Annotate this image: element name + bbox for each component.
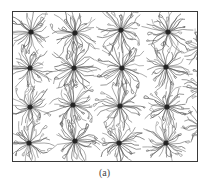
star-core xyxy=(27,104,32,109)
star-structure xyxy=(181,29,198,68)
star-core xyxy=(70,102,75,107)
star-structure xyxy=(46,41,101,90)
star-core xyxy=(71,65,76,70)
star-structure xyxy=(12,86,51,131)
star-structure xyxy=(50,11,99,60)
star-structure xyxy=(12,45,52,88)
star-core xyxy=(164,104,169,109)
star-structure xyxy=(96,11,140,56)
star-core xyxy=(163,140,168,145)
star-structure xyxy=(143,116,190,161)
star-structure xyxy=(142,11,193,53)
star-core xyxy=(27,65,32,70)
star-core xyxy=(72,138,77,143)
figure-caption: (a) xyxy=(0,166,209,180)
star-core xyxy=(72,30,77,35)
star-core xyxy=(197,45,198,50)
star-polymer-snapshot xyxy=(12,11,198,162)
star-core xyxy=(119,65,124,70)
star-core xyxy=(118,27,123,32)
star-core xyxy=(28,29,33,34)
star-structure xyxy=(92,122,145,162)
star-core xyxy=(163,64,168,69)
star-structure xyxy=(12,11,49,54)
star-core xyxy=(117,103,122,108)
star-core xyxy=(165,29,170,34)
star-core xyxy=(116,140,121,145)
star-structure xyxy=(12,121,54,162)
simulation-snapshot-frame xyxy=(12,11,198,162)
star-structure xyxy=(94,40,147,95)
star-structure xyxy=(144,82,192,131)
figure-panel: (a) xyxy=(0,0,209,190)
star-structure xyxy=(93,80,145,132)
star-core xyxy=(26,140,31,145)
